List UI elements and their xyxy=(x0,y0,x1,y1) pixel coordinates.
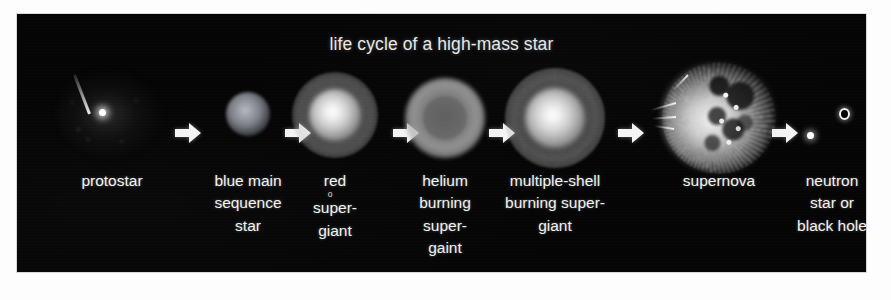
caption-line: protostar xyxy=(81,170,142,192)
multiple-shell-burning-supergiant-icon xyxy=(505,68,605,168)
caption-line: black hole xyxy=(797,215,866,237)
caption-line: burning xyxy=(419,192,471,214)
arrow-right-icon xyxy=(618,122,644,144)
caption-line: neutron xyxy=(797,170,866,192)
caption-line: star xyxy=(214,215,281,237)
caption-blue-main-sequence-star: blue main sequence star xyxy=(214,170,281,237)
blue-main-sequence-star-icon xyxy=(226,92,270,136)
caption-line: giant xyxy=(505,215,605,237)
caption-line: blue main xyxy=(214,170,281,192)
caption-multiple-shell-burning-supergiant: multiple-shell burning super- giant xyxy=(505,170,605,237)
caption-red-supergiant: red o super- giant xyxy=(313,170,357,242)
caption-line: super- xyxy=(313,197,357,219)
caption-line: giant xyxy=(313,220,357,242)
caption-protostar: protostar xyxy=(81,170,142,192)
diagram-panel: life cycle of a high-mass star protostar xyxy=(17,14,866,272)
caption-neutron-star-or-black-hole: neutron star or black hole xyxy=(797,170,866,237)
black-hole-ring xyxy=(839,108,850,120)
page-title: life cycle of a high-mass star xyxy=(17,34,866,55)
caption-line: super- xyxy=(419,215,471,237)
multishell-core xyxy=(525,88,585,148)
caption-line: sequence xyxy=(214,192,281,214)
caption-helium-burning-supergaint: helium burning super- gaint xyxy=(419,170,471,260)
arrow-right-icon xyxy=(175,122,201,144)
caption-line: red xyxy=(313,170,357,192)
arrow-multiple-shell-to-supernova xyxy=(618,122,644,144)
supernova-sparks xyxy=(706,80,758,156)
helium-dark-core xyxy=(423,96,467,140)
neutron-star-black-hole-icon xyxy=(795,96,866,156)
caption-line: star or xyxy=(797,192,866,214)
caption-line: helium xyxy=(419,170,471,192)
diagram-page: life cycle of a high-mass star protostar xyxy=(0,0,891,300)
arrow-protostar-to-blue-main-sequence xyxy=(175,122,201,144)
supernova-icon xyxy=(656,58,782,178)
caption-line: gaint xyxy=(419,237,471,259)
protostar-core xyxy=(99,109,106,116)
caption-line: burning super- xyxy=(505,192,605,214)
red-supergiant-icon xyxy=(292,72,378,158)
neutron-star-point xyxy=(807,132,814,139)
red-supergiant-core xyxy=(309,89,361,141)
protostar-wisps xyxy=(52,60,172,162)
protostar-icon xyxy=(52,60,172,162)
caption-line: multiple-shell xyxy=(505,170,605,192)
caption-supernova: supernova xyxy=(683,170,755,192)
helium-burning-supergiant-icon xyxy=(405,78,485,158)
caption-line: supernova xyxy=(683,170,755,192)
